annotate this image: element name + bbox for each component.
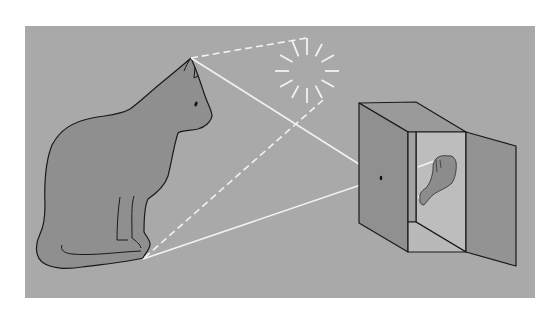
box-door [466, 132, 516, 266]
pinhole [380, 176, 383, 181]
pinhole-camera-diagram [0, 0, 557, 310]
box-inner-left [408, 132, 416, 222]
